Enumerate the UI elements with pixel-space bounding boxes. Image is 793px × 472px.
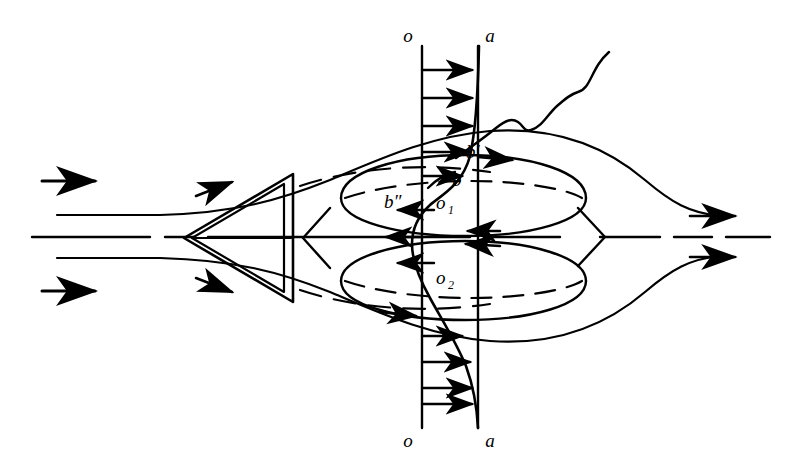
label-b: b [452, 169, 462, 190]
vortex-lower-arrow-top [466, 244, 500, 246]
streamline-arrow-upper-front [196, 182, 232, 196]
figure-canvas: o a o a b′ b b″ o 1 o 2 [0, 0, 793, 472]
label-o1-base: o [436, 192, 446, 213]
label-o2-base: o [436, 267, 446, 288]
streamline-arrow-lower-front [196, 278, 232, 292]
label-o1-sub: 1 [448, 203, 454, 217]
streamline-outer-lower [57, 256, 720, 342]
flow-diagram-svg: o a o a b′ b b″ o 1 o 2 [0, 0, 793, 472]
label-a-bottom: a [485, 430, 495, 451]
label-o1: o 1 [436, 192, 454, 217]
velocity-profile-kink [428, 172, 455, 188]
label-o2-sub: 2 [448, 278, 454, 292]
vortex-ring-upper [341, 155, 586, 236]
label-o-top: o [403, 25, 413, 46]
label-o-bottom: o [403, 430, 413, 451]
label-a-top: a [485, 25, 495, 46]
velocity-arrows-forward-bottom [422, 336, 472, 404]
vortex-ring-lower [341, 241, 586, 320]
label-o2: o 2 [436, 267, 454, 292]
label-b-prime: b′ [466, 141, 481, 162]
velocity-arrows-forward-top [422, 70, 472, 176]
label-b-double-prime: b″ [384, 191, 403, 212]
